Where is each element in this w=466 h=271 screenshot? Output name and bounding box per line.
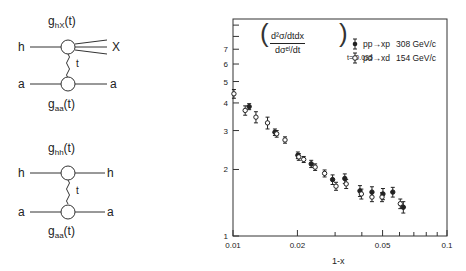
y-tick-label: 5 — [224, 78, 229, 87]
legend-energy: 154 GeV/c — [396, 51, 436, 65]
x-tick-label: 0.01 — [225, 241, 241, 250]
pd-data-point — [265, 117, 269, 129]
ratio-denominator: dσᵉˡ/dt — [270, 44, 305, 56]
y-tick-label: 6 — [224, 60, 229, 69]
y-tick-label: 2 — [224, 165, 229, 174]
pp-data-point — [247, 104, 251, 110]
pd-data-point — [232, 90, 236, 99]
legend-energy: 308 GeV/c — [396, 37, 436, 51]
pp-data-point — [391, 187, 395, 197]
y-axis-ticks: 1234567 — [224, 25, 239, 241]
y-tick-label: 4 — [224, 99, 229, 108]
pd-data-point — [283, 137, 287, 143]
right-paren: ) — [339, 28, 348, 39]
legend-reaction: pd→xd — [363, 51, 390, 65]
legend: pp→xp 308 GeV/c pd→xd 154 GeV/c — [350, 37, 436, 65]
pd-data-point — [254, 112, 258, 123]
open-circle-marker-icon — [350, 52, 360, 64]
x-axis-title: 1-x — [332, 256, 345, 266]
x-tick-label: 0.02 — [290, 241, 306, 250]
data-points — [232, 90, 406, 214]
left-paren: ( — [260, 28, 269, 39]
y-tick-label: 1 — [224, 232, 229, 241]
legend-reaction: pp→xp — [363, 37, 390, 51]
pd-data-point — [322, 170, 326, 177]
pd-data-point — [334, 182, 338, 190]
pp-data-point — [330, 175, 334, 185]
pd-data-point — [302, 156, 306, 162]
ratio-fraction: d²σ/dtdx dσᵉˡ/dt — [270, 31, 305, 56]
ratio-numerator: d²σ/dtdx — [270, 31, 305, 44]
legend-entry-pd: pd→xd 154 GeV/c — [350, 51, 436, 65]
filled-circle-marker-icon — [350, 38, 360, 50]
legend-entry-pp: pp→xp 308 GeV/c — [350, 37, 436, 51]
x-axis-ticks: 0.010.020.050.1 — [225, 230, 453, 250]
y-tick-label: 7 — [224, 45, 229, 54]
x-tick-label: 0.05 — [375, 241, 391, 250]
y-tick-label: 3 — [224, 127, 229, 136]
x-tick-label: 0.1 — [441, 241, 453, 250]
